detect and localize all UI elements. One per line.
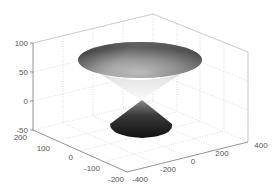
y-tick-label: -100 bbox=[84, 164, 101, 173]
x-tick-label: -400 bbox=[132, 175, 149, 184]
z-tick-label: 0 bbox=[24, 97, 29, 106]
y-axis-labels: 200 100 0 -100 -200 bbox=[14, 133, 125, 184]
y-tick-label: -200 bbox=[108, 175, 125, 184]
z-axis-ticks bbox=[30, 43, 33, 130]
z-tick-label: 50 bbox=[19, 68, 28, 77]
x-tick-label: 400 bbox=[254, 141, 268, 150]
upper-cone-surface bbox=[78, 42, 202, 100]
surface-plot: 100 50 0 -50 200 100 0 -100 -200 -400 -2… bbox=[0, 0, 276, 188]
x-tick-label: 0 bbox=[191, 157, 196, 166]
y-tick-label: 100 bbox=[37, 144, 51, 153]
x-tick-label: 200 bbox=[215, 149, 229, 158]
y-tick-label: 200 bbox=[14, 133, 28, 142]
x-tick-label: -200 bbox=[160, 165, 177, 174]
lower-cone-surface bbox=[110, 100, 172, 138]
z-axis-labels: 100 50 0 -50 bbox=[15, 39, 29, 135]
z-tick-label: 100 bbox=[15, 39, 29, 48]
x-axis-labels: -400 -200 0 200 400 bbox=[132, 141, 268, 184]
y-tick-label: 0 bbox=[69, 153, 74, 162]
